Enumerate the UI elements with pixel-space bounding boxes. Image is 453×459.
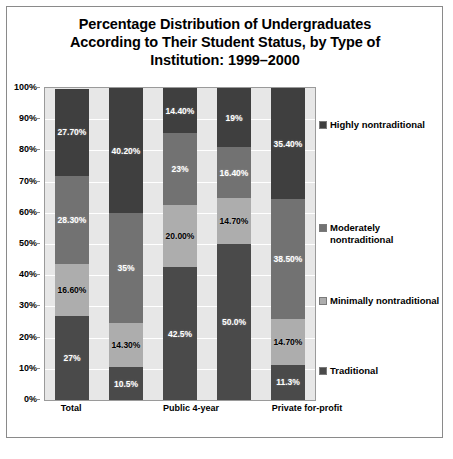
bar-segment-label: 14.40% (166, 106, 195, 116)
bar-segment-label: 28.30% (58, 215, 87, 225)
legend-swatch-icon (319, 367, 327, 375)
bar-segment[interactable]: 23% (163, 133, 197, 205)
legend-swatch-icon (319, 297, 327, 305)
bar-segment-label: 14.70% (274, 337, 303, 347)
bar-segment[interactable]: 35.40% (271, 88, 305, 198)
bar-column[interactable]: 35.40%38.50%14.70%11.3% (271, 88, 305, 400)
x-tick-label: Total (54, 403, 88, 425)
legend-label: Minimally nontraditional (330, 295, 439, 307)
y-tick-mark (36, 118, 40, 119)
y-tick-mark (36, 305, 40, 306)
y-tick-mark (36, 337, 40, 338)
legend-label: Moderately nontraditional (330, 222, 393, 245)
bar-segment[interactable]: 16.40% (217, 147, 251, 198)
bar-segment-label: 50.0% (222, 317, 246, 327)
bar-segment-label: 35% (117, 263, 134, 273)
bar-segment-label: 16.40% (220, 168, 249, 178)
y-tick-label: 90% (19, 113, 37, 123)
bar-segment-label: 27% (63, 353, 80, 363)
y-tick-label: 30% (19, 300, 37, 310)
legend-item[interactable]: Traditional (319, 365, 378, 377)
y-tick-label: 60% (19, 207, 37, 217)
chart-legend: Highly nontraditionalModerately nontradi… (319, 91, 441, 391)
legend-label: Highly nontraditional (330, 119, 425, 131)
bar-segment[interactable]: 19% (217, 88, 251, 147)
bar-segment-label: 35.40% (274, 139, 303, 149)
legend-swatch-icon (319, 224, 327, 232)
bar-segment-label: 40.20% (112, 146, 141, 156)
bar-segment[interactable]: 28.30% (55, 176, 89, 264)
bar-column[interactable]: 19%16.40%14.70%50.0% (217, 88, 251, 400)
chart-title: Percentage Distribution of Undergraduate… (25, 15, 425, 69)
bar-segment[interactable]: 42.5% (163, 267, 197, 400)
y-tick-mark (36, 368, 40, 369)
bar-segment-label: 11.3% (276, 377, 300, 387)
y-tick-label: 80% (19, 144, 37, 154)
y-tick-mark (36, 149, 40, 150)
bar-segment-label: 27.70% (58, 127, 87, 137)
bar-column[interactable]: 40.20%35%14.30%10.5% (109, 88, 143, 400)
x-axis: TotalPublic 4-yearPrivate for-profit (44, 403, 316, 425)
y-tick-label: 70% (19, 176, 37, 186)
bar-segment[interactable]: 38.50% (271, 199, 305, 319)
bar-segment-label: 14.70% (220, 216, 249, 226)
y-tick-mark (36, 274, 40, 275)
bar-segment-label: 10.5% (114, 379, 138, 389)
bar-segment-label: 38.50% (274, 254, 303, 264)
bottom-caption (8, 447, 445, 454)
x-tick-label: Public 4-year (163, 403, 197, 425)
bar-segment[interactable]: 14.30% (109, 323, 143, 368)
bar-column[interactable]: 27.70%28.30%16.60%27% (55, 88, 89, 400)
bar-segment[interactable]: 27.70% (55, 89, 89, 175)
y-tick-label: 20% (19, 332, 37, 342)
bar-series-group: 27.70%28.30%16.60%27%40.20%35%14.30%10.5… (45, 88, 315, 400)
plot-wrap: 27.70%28.30%16.60%27%40.20%35%14.30%10.5… (44, 87, 316, 401)
bar-segment[interactable]: 20.00% (163, 205, 197, 267)
bar-segment-label: 23% (171, 164, 188, 174)
bar-segment-label: 14.30% (112, 340, 141, 350)
legend-label: Traditional (330, 365, 378, 377)
x-tick-label: Private for-profit (272, 403, 306, 425)
legend-item[interactable]: Highly nontraditional (319, 119, 425, 131)
x-tick-label (109, 403, 143, 425)
legend-item[interactable]: Minimally nontraditional (319, 295, 439, 307)
chart-title-line-2: According to Their Student Status, by Ty… (25, 33, 425, 51)
plot-area: 27.70%28.30%16.60%27%40.20%35%14.30%10.5… (44, 87, 316, 401)
y-tick-label: 100% (14, 82, 37, 92)
bar-segment[interactable]: 10.5% (109, 367, 143, 400)
chart-title-line-3: Institution: 1999–2000 (25, 51, 425, 69)
bar-segment[interactable]: 16.60% (55, 264, 89, 316)
y-axis: 100%90%80%70%60%50%40%30%20%10%0% (7, 81, 40, 407)
chart-frame: Percentage Distribution of Undergraduate… (6, 6, 443, 438)
bar-segment[interactable]: 35% (109, 213, 143, 322)
y-tick-label: 10% (19, 363, 37, 373)
legend-swatch-icon (319, 121, 327, 129)
bar-segment[interactable]: 50.0% (217, 244, 251, 400)
y-tick-mark (36, 399, 40, 400)
bar-segment[interactable]: 11.3% (271, 365, 305, 400)
bar-segment-label: 19% (225, 113, 242, 123)
y-tick-mark (36, 243, 40, 244)
bar-segment-label: 42.5% (168, 329, 192, 339)
bar-segment-label: 20.00% (166, 231, 195, 241)
y-tick-mark (36, 87, 40, 88)
bar-column[interactable]: 14.40%23%20.00%42.5% (163, 88, 197, 400)
y-tick-label: 50% (19, 238, 37, 248)
legend-item[interactable]: Moderately nontraditional (319, 222, 393, 245)
bar-segment[interactable]: 14.70% (271, 319, 305, 365)
bar-segment[interactable]: 40.20% (109, 88, 143, 213)
bar-segment-label: 16.60% (58, 285, 87, 295)
y-tick-label: 40% (19, 269, 37, 279)
bar-segment[interactable]: 14.40% (163, 88, 197, 133)
x-tick-label (217, 403, 251, 425)
bar-segment[interactable]: 14.70% (217, 198, 251, 244)
chart-title-line-1: Percentage Distribution of Undergraduate… (25, 15, 425, 33)
y-tick-mark (36, 181, 40, 182)
y-tick-mark (36, 212, 40, 213)
bar-segment[interactable]: 27% (55, 316, 89, 400)
